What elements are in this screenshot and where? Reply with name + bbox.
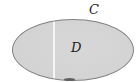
vertical-highlight-line bbox=[53, 20, 55, 80]
region-label: D bbox=[71, 41, 81, 54]
ellipse-region-diagram: C D bbox=[0, 0, 138, 82]
bottom-boundary-mark bbox=[64, 78, 75, 81]
boundary-curve-label: C bbox=[89, 3, 99, 16]
